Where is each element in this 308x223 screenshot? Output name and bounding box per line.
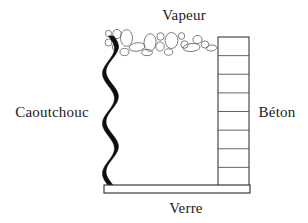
label-beton: Béton	[259, 104, 296, 120]
diagram-canvas: Vapeur Caoutchouc Béton Verre	[0, 0, 308, 223]
glass-bar	[104, 185, 250, 193]
label-vapeur: Vapeur	[162, 7, 206, 23]
label-caoutchouc: Caoutchouc	[15, 104, 89, 120]
glass-substrate	[104, 185, 250, 193]
label-verre: Verre	[169, 200, 203, 216]
cross-section-diagram: Vapeur Caoutchouc Béton Verre	[0, 0, 308, 223]
